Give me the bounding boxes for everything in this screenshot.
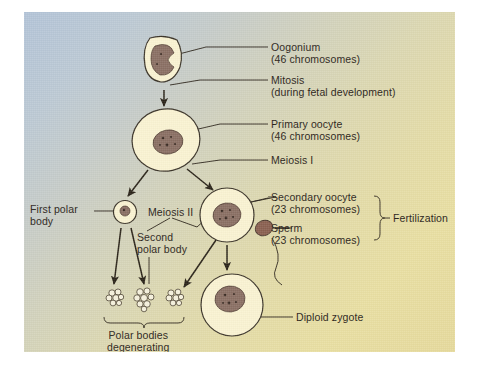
label-second-polar-body-line2: polar body [137, 243, 187, 255]
label-sperm: Sperm (23 chromosomes) [271, 222, 360, 247]
label-primary-oocyte-line2: (46 chromosomes) [271, 130, 360, 142]
leader-mitosis [170, 80, 268, 85]
arrow-polar-body-1 [114, 228, 121, 284]
polar-bodies-bracket [104, 317, 184, 328]
label-primary-oocyte: Primary oocyte (46 chromosomes) [271, 118, 360, 143]
degenerating-polar-bodies [106, 288, 184, 312]
label-polar-bodies-degenerating: Polar bodies degenerating [107, 329, 170, 352]
cell-oogonium [144, 36, 181, 82]
polar-body-blob-1 [106, 289, 124, 306]
label-mitosis-line1: Mitosis [271, 74, 396, 86]
leader-primary-oocyte [194, 124, 268, 130]
label-second-polar-body: Second polar body [137, 231, 187, 256]
leader-meiosis-ii-left [147, 218, 170, 231]
label-secondary-oocyte-line1: Secondary oocyte [271, 191, 360, 203]
leader-lines [94, 47, 293, 317]
label-meiosis-i-line1: Meiosis I [271, 154, 313, 167]
label-mitosis: Mitosis (during fetal development) [271, 74, 396, 99]
arrow-to-first-polar-body [128, 170, 148, 196]
diagram-drawing [24, 12, 455, 352]
label-diploid-zygote-line1: Diploid zygote [296, 311, 363, 324]
label-first-polar-body: First polar body [30, 203, 78, 228]
leader-meiosis-i [192, 160, 268, 164]
label-polar-bodies-degenerating-line1: Polar bodies [107, 329, 170, 341]
cell-diploid-zygote [201, 274, 263, 336]
label-second-polar-body-line1: Second [137, 231, 187, 243]
label-oogonium-line1: Oogonium [271, 41, 360, 53]
cell-primary-oocyte [126, 103, 205, 178]
label-sperm-line2: (23 chromosomes) [271, 234, 360, 246]
label-mitosis-line2: (during fetal development) [271, 86, 396, 98]
label-fertilization: Fertilization [393, 212, 448, 225]
label-primary-oocyte-line1: Primary oocyte [271, 118, 360, 130]
cell-first-polar-body [114, 201, 137, 224]
label-sperm-line1: Sperm [271, 222, 360, 234]
arrow-to-secondary-oocyte [187, 169, 213, 190]
label-first-polar-body-line1: First polar [30, 203, 78, 215]
label-oogonium-line2: (46 chromosomes) [271, 53, 360, 65]
leader-oogonium [179, 47, 268, 54]
label-fertilization-line1: Fertilization [393, 212, 448, 225]
fertilization-brace [374, 196, 390, 240]
label-oogonium: Oogonium (46 chromosomes) [271, 41, 360, 66]
label-first-polar-body-line2: body [30, 215, 78, 227]
label-secondary-oocyte-line2: (23 chromosomes) [271, 203, 360, 215]
figure-page: Oogonium (46 chromosomes) Mitosis (durin… [0, 0, 479, 375]
label-meiosis-ii-line1: Meiosis II [148, 206, 193, 219]
arrow-polar-body-3 [184, 240, 216, 287]
polar-body-blob-3 [166, 289, 184, 306]
label-meiosis-i: Meiosis I [271, 154, 313, 167]
cell-secondary-oocyte [200, 188, 254, 242]
oogenesis-figure-panel: Oogonium (46 chromosomes) Mitosis (durin… [24, 12, 455, 352]
polar-body-blob-2 [134, 288, 154, 312]
label-secondary-oocyte: Secondary oocyte (23 chromosomes) [271, 191, 360, 216]
first-polar-body-nucleus [120, 206, 130, 216]
label-diploid-zygote: Diploid zygote [296, 311, 363, 324]
label-polar-bodies-degenerating-line2: degenerating [107, 341, 170, 352]
label-meiosis-ii: Meiosis II [148, 206, 193, 219]
